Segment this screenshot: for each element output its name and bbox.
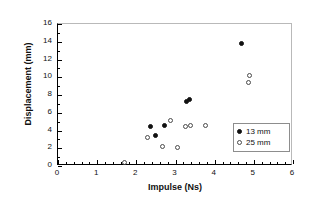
- x-axis-title: Impulse (Ns): [57, 182, 293, 192]
- y-axis-tick-label: 10: [30, 71, 52, 80]
- y-axis-minor-tick: [58, 51, 60, 52]
- x-axis-tick-label: 2: [123, 168, 147, 177]
- y-axis-tick: [58, 24, 62, 25]
- y-axis-minor-tick: [58, 157, 60, 158]
- y-axis-tick-label: 16: [30, 18, 52, 27]
- x-axis-tick-label: 5: [241, 168, 265, 177]
- data-point: [247, 73, 252, 78]
- x-axis-tick: [97, 160, 98, 164]
- data-point: [122, 160, 127, 165]
- x-axis-tick: [215, 160, 216, 164]
- x-axis-minor-tick: [199, 162, 200, 164]
- y-axis-tick-label: 0: [30, 160, 52, 169]
- y-axis-minor-tick: [58, 68, 60, 69]
- x-axis-tick-label: 6: [280, 168, 304, 177]
- y-axis-minor-tick: [58, 86, 60, 87]
- y-axis-tick-label: 4: [30, 125, 52, 134]
- x-axis-minor-tick: [230, 162, 231, 164]
- x-axis-tick-label: 3: [163, 168, 187, 177]
- y-axis-tick: [58, 77, 62, 78]
- x-axis-minor-tick: [223, 162, 224, 164]
- x-axis-tick: [293, 160, 294, 164]
- legend-entry: 25 mm: [237, 137, 286, 148]
- scatter-chart-figure: Displacement (mm) Impulse (Ns) 012345602…: [0, 0, 315, 201]
- y-axis-tick: [58, 42, 62, 43]
- x-axis-minor-tick: [89, 162, 90, 164]
- x-axis-minor-tick: [113, 162, 114, 164]
- y-axis-tick-label: 2: [30, 142, 52, 151]
- x-axis-minor-tick: [207, 162, 208, 164]
- y-axis-tick: [58, 166, 62, 167]
- legend-entry: 13 mm: [237, 126, 286, 137]
- data-point: [145, 135, 150, 140]
- x-axis-minor-tick: [168, 162, 169, 164]
- x-axis-tick: [254, 160, 255, 164]
- x-axis-minor-tick: [262, 162, 263, 164]
- data-point: [162, 123, 167, 128]
- x-axis-minor-tick: [66, 162, 67, 164]
- x-axis-tick-label: 4: [202, 168, 226, 177]
- x-axis-minor-tick: [183, 162, 184, 164]
- y-axis-title: Displacement (mm): [23, 4, 33, 164]
- x-axis-tick: [58, 160, 59, 164]
- data-point: [246, 80, 251, 85]
- filled-circle-icon: [237, 129, 242, 134]
- y-axis-tick: [58, 148, 62, 149]
- data-point: [160, 144, 165, 149]
- y-axis-tick-label: 6: [30, 107, 52, 116]
- x-axis-tick: [176, 160, 177, 164]
- x-axis-tick-label: 0: [45, 168, 69, 177]
- legend-label: 25 mm: [246, 138, 270, 147]
- y-axis-minor-tick: [58, 33, 60, 34]
- x-axis-minor-tick: [74, 162, 75, 164]
- y-axis-tick-label: 8: [30, 89, 52, 98]
- x-axis-minor-tick: [285, 162, 286, 164]
- y-axis-minor-tick: [58, 139, 60, 140]
- y-axis-tick: [58, 113, 62, 114]
- x-axis-minor-tick: [160, 162, 161, 164]
- data-point: [187, 97, 192, 102]
- data-point: [153, 133, 158, 138]
- x-axis-tick: [136, 160, 137, 164]
- x-axis-minor-tick: [121, 162, 122, 164]
- x-axis-minor-tick: [270, 162, 271, 164]
- legend-label: 13 mm: [246, 127, 270, 136]
- data-point: [148, 124, 153, 129]
- y-axis-minor-tick: [58, 104, 60, 105]
- y-axis-tick: [58, 131, 62, 132]
- x-axis-minor-tick: [82, 162, 83, 164]
- x-axis-minor-tick: [246, 162, 247, 164]
- y-axis-tick: [58, 95, 62, 96]
- y-axis-minor-tick: [58, 122, 60, 123]
- x-axis-minor-tick: [144, 162, 145, 164]
- data-point: [203, 123, 208, 128]
- y-axis-tick-label: 12: [30, 54, 52, 63]
- y-axis-tick-label: 14: [30, 36, 52, 45]
- y-axis-tick: [58, 60, 62, 61]
- x-axis-minor-tick: [191, 162, 192, 164]
- data-point: [188, 123, 193, 128]
- data-point: [168, 118, 173, 123]
- x-axis-minor-tick: [277, 162, 278, 164]
- data-point: [175, 145, 180, 150]
- data-point: [239, 41, 244, 46]
- x-axis-minor-tick: [238, 162, 239, 164]
- x-axis-minor-tick: [152, 162, 153, 164]
- chart-legend: 13 mm25 mm: [233, 123, 290, 152]
- open-circle-icon: [237, 140, 242, 145]
- x-axis-tick-label: 1: [84, 168, 108, 177]
- x-axis-minor-tick: [129, 162, 130, 164]
- x-axis-minor-tick: [105, 162, 106, 164]
